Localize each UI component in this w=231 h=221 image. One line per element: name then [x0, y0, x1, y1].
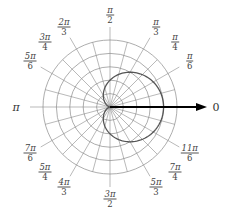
grid-spoke: [70, 107, 110, 176]
angle-label: 4π3: [58, 177, 71, 196]
grid-spoke: [110, 67, 179, 107]
angle-label: π2: [106, 6, 114, 25]
grid-spoke: [63, 107, 110, 154]
label-denominator: 6: [186, 62, 194, 71]
grid-spoke: [70, 38, 110, 107]
label-denominator: 6: [24, 62, 37, 71]
grid-spoke: [45, 90, 110, 107]
grid-spoke: [93, 42, 110, 107]
label-denominator: 3: [58, 28, 71, 37]
angle-label: 5π4: [38, 163, 51, 182]
label-denominator: 3: [150, 187, 163, 196]
grid-spoke: [110, 90, 175, 107]
polar-axis-arrow: [110, 103, 207, 111]
grid-spoke: [110, 60, 157, 107]
grid-spoke: [93, 107, 110, 172]
grid-spoke: [110, 107, 157, 154]
angle-label: π4: [171, 32, 179, 51]
grid-spoke: [63, 60, 110, 107]
label-denominator: 2: [106, 16, 114, 25]
angle-label: π3: [152, 18, 160, 37]
label-denominator: 4: [38, 42, 51, 51]
grid-spoke: [45, 107, 110, 124]
grid-spoke: [41, 67, 110, 107]
angle-label: 5π3: [150, 177, 163, 196]
grid-spoke: [110, 107, 179, 147]
label-denominator: 4: [38, 173, 51, 182]
label-denominator: 4: [171, 42, 179, 51]
angle-label: 11π6: [180, 144, 198, 163]
arrowhead-icon: [196, 103, 207, 111]
angle-label: π6: [186, 52, 194, 71]
angle-label: 5π6: [24, 52, 37, 71]
angle-label: π: [12, 101, 19, 114]
label-denominator: 6: [24, 154, 37, 163]
label-denominator: 3: [58, 187, 71, 196]
polar-axis-label: 0: [213, 101, 220, 114]
grid-spoke: [41, 107, 110, 147]
angle-label: 2π3: [58, 18, 71, 37]
angle-label: 3π4: [38, 32, 51, 51]
label-denominator: 2: [104, 200, 117, 209]
angle-label: 7π4: [169, 163, 182, 182]
grid-spoke: [110, 107, 175, 124]
angle-label: 3π2: [104, 190, 117, 209]
polar-plot: [0, 0, 231, 221]
label-denominator: 3: [152, 28, 160, 37]
angle-label: 7π6: [24, 144, 37, 163]
label-denominator: 6: [180, 154, 198, 163]
label-denominator: 4: [169, 173, 182, 182]
